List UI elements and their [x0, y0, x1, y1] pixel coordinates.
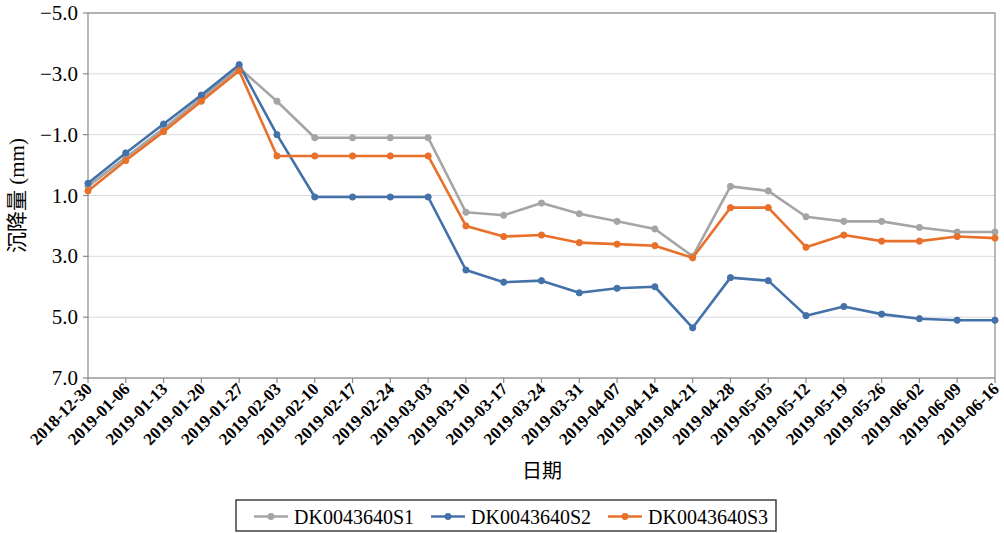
data-point: [652, 284, 658, 290]
data-point: [312, 135, 318, 141]
legend: DK0043640S1DK0043640S2DK0043640S3: [236, 500, 776, 531]
series-line: [88, 71, 995, 258]
data-point: [765, 188, 771, 194]
y-tick-label: −5.0: [40, 1, 78, 25]
data-point: [879, 311, 885, 317]
data-point: [425, 153, 431, 159]
data-point: [841, 303, 847, 309]
data-point: [274, 98, 280, 104]
data-point: [652, 226, 658, 232]
legend-label: DK0043640S1: [294, 506, 414, 528]
data-point: [614, 241, 620, 247]
data-point: [614, 285, 620, 291]
series-line: [88, 68, 995, 257]
data-point: [727, 183, 733, 189]
data-point: [765, 205, 771, 211]
x-axis-title-text: 日期: [522, 460, 562, 482]
data-point: [916, 224, 922, 230]
y-tick-labels: −5.0−3.0−1.01.03.05.07.0: [40, 1, 88, 390]
data-point: [916, 316, 922, 322]
data-point: [85, 188, 91, 194]
settlement-line-chart: −5.0−3.0−1.01.03.05.07.0沉降量 (mm)2018-12-…: [0, 0, 1004, 533]
data-point: [85, 180, 91, 186]
data-point: [349, 135, 355, 141]
data-point: [160, 121, 166, 127]
series-DK0043640S2: [85, 62, 998, 331]
chart-canvas: −5.0−3.0−1.01.03.05.07.0沉降量 (mm)2018-12-…: [0, 0, 1004, 533]
data-point: [198, 98, 204, 104]
data-point: [349, 153, 355, 159]
data-point: [463, 267, 469, 273]
data-point: [160, 129, 166, 135]
data-point: [463, 223, 469, 229]
y-tick-label: −3.0: [40, 62, 78, 86]
data-point: [727, 205, 733, 211]
data-point: [576, 240, 582, 246]
data-point: [992, 229, 998, 235]
data-point: [501, 233, 507, 239]
y-tick-label: 1.0: [52, 184, 78, 208]
data-point: [274, 132, 280, 138]
data-point: [501, 212, 507, 218]
data-point: [425, 135, 431, 141]
x-tick-labels: 2018-12-302019-01-062019-01-132019-01-20…: [26, 378, 1003, 449]
legend-swatch-marker: [622, 513, 629, 520]
legend-swatch-marker: [268, 513, 275, 520]
data-point: [841, 218, 847, 224]
data-point: [538, 200, 544, 206]
data-point: [538, 232, 544, 238]
data-point: [841, 232, 847, 238]
data-point: [387, 135, 393, 141]
data-point: [727, 275, 733, 281]
data-point: [879, 218, 885, 224]
gridlines: [88, 13, 995, 378]
data-point: [916, 238, 922, 244]
y-tick-label: −1.0: [40, 123, 78, 147]
data-point: [387, 153, 393, 159]
series-DK0043640S1: [85, 65, 998, 260]
data-point: [765, 278, 771, 284]
data-point: [236, 68, 242, 74]
data-point: [992, 235, 998, 241]
legend-swatch-marker: [445, 513, 452, 520]
data-point: [123, 150, 129, 156]
data-point: [690, 325, 696, 331]
data-point: [274, 153, 280, 159]
data-point: [879, 238, 885, 244]
data-point: [387, 194, 393, 200]
series-line: [88, 65, 995, 328]
data-point: [690, 255, 696, 261]
data-point: [425, 194, 431, 200]
series-DK0043640S3: [85, 68, 998, 261]
data-point: [312, 153, 318, 159]
data-point: [652, 243, 658, 249]
y-tick-label: 3.0: [52, 244, 78, 268]
x-axis-title: 日期: [522, 460, 562, 482]
data-point: [236, 62, 242, 68]
data-point: [954, 317, 960, 323]
data-point: [198, 92, 204, 98]
data-point: [463, 209, 469, 215]
data-point: [576, 290, 582, 296]
data-point: [614, 218, 620, 224]
data-point: [349, 194, 355, 200]
data-point: [803, 214, 809, 220]
data-point: [576, 211, 582, 217]
legend-label: DK0043640S2: [471, 506, 591, 528]
legend-label: DK0043640S3: [648, 506, 768, 528]
data-point: [123, 157, 129, 163]
data-point: [992, 317, 998, 323]
y-tick-label: 5.0: [52, 305, 78, 329]
data-point: [803, 313, 809, 319]
data-point: [954, 233, 960, 239]
data-point: [538, 278, 544, 284]
y-axis-title: 沉降量 (mm): [5, 138, 29, 253]
data-point: [501, 279, 507, 285]
data-point: [312, 194, 318, 200]
y-axis-title-text: 沉降量 (mm): [5, 138, 29, 253]
data-point: [803, 244, 809, 250]
